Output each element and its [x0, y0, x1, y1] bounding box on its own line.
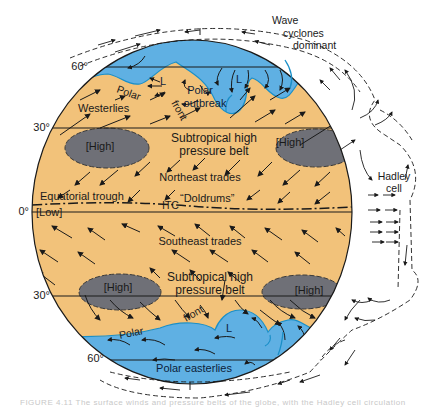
- polar-outbreak-label-1: Polar: [187, 84, 213, 96]
- westerlies-label: Westerlies: [78, 102, 130, 114]
- low-label-equator: [Low]: [36, 206, 62, 218]
- high-label-ne: [High]: [276, 136, 305, 148]
- equatorial-trough-label: Equatorial trough: [40, 190, 124, 202]
- globe: [0, 0, 427, 415]
- polar-easterlies-label: Polar easterlies: [156, 362, 232, 374]
- latitude-label-equator: 0°: [18, 205, 29, 217]
- high-label-sw: [High]: [104, 281, 133, 293]
- southeast-trades-label: Southeast trades: [158, 235, 242, 247]
- low-marker-n1: L: [160, 75, 166, 87]
- doldrums-label: “Doldrums”: [180, 192, 235, 204]
- wave-cyclones-label-2: cyclones: [283, 27, 324, 39]
- northeast-trades-label: Northeast trades: [159, 171, 241, 183]
- latitude-label-30s: 30°: [33, 289, 50, 301]
- itc-label: ITC: [162, 199, 179, 211]
- low-marker-s: L: [226, 322, 232, 334]
- wave-cyclones-label-1: Wave: [272, 14, 299, 26]
- latitude-label-30n: 30°: [33, 121, 50, 133]
- hadley-cell-label-2: cell: [386, 182, 402, 194]
- hadley-cell-label-1: Hadley: [378, 170, 411, 182]
- wave-cyclones-label-3: dominant: [293, 39, 336, 51]
- latitude-label-60s: 60°: [87, 352, 104, 364]
- low-marker-n2: L: [236, 73, 242, 85]
- circulation-diagram: 60° 30° 0° 30° 60° Wave cyclones dominan…: [0, 0, 427, 415]
- high-label-se: [High]: [295, 284, 324, 296]
- subtropical-south-2: pressure belt: [175, 283, 245, 297]
- figure-caption: FIGURE 4.11 The surface winds and pressu…: [20, 398, 420, 410]
- high-label-nw: [High]: [86, 140, 115, 152]
- latitude-label-60n: 60°: [71, 60, 88, 72]
- subtropical-north-1: Subtropical high: [171, 131, 257, 145]
- polar-outbreak-label-2: outbreak: [184, 97, 227, 109]
- subtropical-north-2: pressure belt: [179, 144, 249, 158]
- subtropical-south-1: Subtropical high: [167, 270, 253, 284]
